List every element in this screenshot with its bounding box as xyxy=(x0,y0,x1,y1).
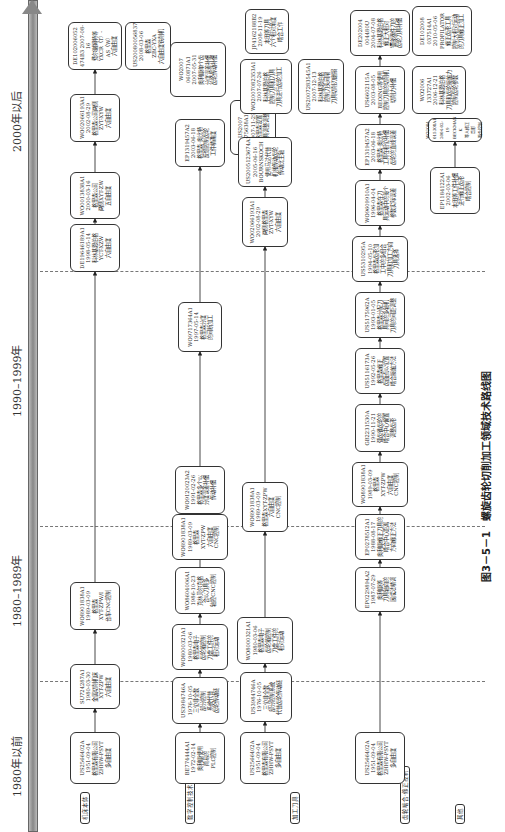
patent-node[interactable]: WO9717364A11997-05-14格里森分度的间断加工 xyxy=(178,302,222,352)
patent-node[interactable]: JP4162188B22008-11-19本田等刀具六个相对角度啮合工作 xyxy=(245,9,289,54)
patent-node[interactable]: GB2231530A1990-11-21弧齿锥齿轮的啮合中心偏置调整齿形 xyxy=(355,404,405,452)
patent-node[interactable]: DE202004004480U2004-07-08科林基恩伯格修正大相对镶嵌器件… xyxy=(350,10,410,56)
patent-node[interactable]: EP1319457A22003-06-18格里森·奥比特工具在相位补偿齿轮的直线… xyxy=(355,124,405,170)
patent-node[interactable]: EP0278512A11988-08-17奥利康修正刀具的啮合中心距离方向修正方… xyxy=(355,514,405,560)
patent-node[interactable]: WO8000321A11980-03-06格里森电子齿轮箱控制刀盘工件的相对运动 xyxy=(237,617,293,664)
patent-node[interactable]: WO2006133727A12006-12-21科林基恩伯格刀具和齿轮接触力控制… xyxy=(412,66,466,114)
patent-node[interactable]: WO8604006A11986-10-23克林贝尔克格合以刀具多轴控CNC控制 xyxy=(175,567,225,614)
patent-node[interactable]: DE19646189A11998-05-14科林基恩伯格YCT-XZW六自由度 xyxy=(70,224,120,272)
patent-node[interactable]: WO9120023A21991-02-26格里森多个以分度误差补偿传动补偿 xyxy=(175,466,225,514)
patent-node[interactable]: EP1184122A12002-03-06本田等工件补偿进行修正齿形啮合控制 xyxy=(430,167,480,214)
row-label: 数字控制技术 xyxy=(185,780,195,824)
patent-node[interactable]: WO8000321A11980-03-06格里森电子齿轮箱控制刀盘工件的相对运动 xyxy=(172,624,228,670)
patent-node[interactable]: WO8901838A11989-03-09格里森XYT-ZPW六自由度CNC控制 xyxy=(352,462,408,507)
patent-node[interactable]: US2005123674A12005-06-16BOURNSKOCH使用马达代替… xyxy=(238,137,292,187)
patent-node[interactable]: BE774444A11972-02-14奥利康使用简易的PLC控制 xyxy=(175,732,225,784)
patent-node[interactable]: WO02066193A12002-08-29格里森公司两侧ZYT-XYW六自由度 xyxy=(70,94,120,142)
patent-node[interactable]: US2566402A1951-09-04格里森有限公司ZHHW-PSYT多自由度 xyxy=(355,732,405,784)
patent-node[interactable]: EP1319457A22003-06-18格里森·奥比特反馈控制齿轮工件精确度 xyxy=(175,119,225,167)
patent-node[interactable]: WO02066193A12002-08-29两侧格里森ZYT-XYW六自由度 xyxy=(242,197,288,247)
patent-node[interactable]: WO8901838A11989-03-09格里森XYT-ZPW六自由度CNC控制 xyxy=(242,482,288,532)
patent-node[interactable]: US2566402A1951-09-04格里森有限公司ZHHW-PSYT多自由度 xyxy=(70,732,120,784)
row-label: 机床本体 xyxy=(80,792,90,824)
patent-node[interactable]: US2007283545A12007-12-13科林基恩伯格控制刀头间隔刀具切削… xyxy=(298,59,344,114)
patent-node[interactable]: WO2007060871A12007-05-31奥利康单个齿分度误差补偿齿轮传动… xyxy=(170,42,226,97)
patent-node[interactable]: US2566402A1951-09-04格里森有限公司ZHHW-PSYT多自由度 xyxy=(240,732,290,784)
patent-node[interactable]: WO0013838A12000-03-16格里森公司两侧XYT-ZW五自由度 xyxy=(70,172,120,219)
patent-node[interactable]: WO2004015308A12004-02-19BECKMAN K等人修正齿形啮… xyxy=(428,118,482,142)
patent-node[interactable]: DE102006052474B3 2007-08-16费尔谢姆特等YXCR（T）… xyxy=(68,22,122,70)
patent-node[interactable]: DE102008037514A12010-05-06PROFILATOR修正齿形… xyxy=(412,6,472,56)
patent-node[interactable]: US3984746A1976-10-05三位非全数部分控制系统代替齿轮传动链 xyxy=(240,672,292,722)
patent-node[interactable]: WO2007082353A12007-07-26科林基恩伯格控制刀具和刀具刀具进… xyxy=(240,59,292,114)
figure-caption: 图3－5－1 螺旋齿轮切削加工领域技术路线图 xyxy=(478,371,493,582)
patent-node[interactable]: SU724287A11980-03-30金属切削机床XYT-ZPW六自由度 xyxy=(70,664,120,709)
patent-node[interactable]: WO8901838A11989-03-09格里森XYT-ZPW/I台车CNC控制 xyxy=(70,582,120,630)
patent-node[interactable]: US6602115A2003-08-05BEOING等使用控制刀具的切削机切削力… xyxy=(355,66,405,114)
patent-node[interactable]: US200800568372008-03-06格里森ZBC-YXA六自由度铣削机 xyxy=(125,22,171,70)
patent-node[interactable]: WO9609910A11996-04-04格里森在刀具运动中的每个参数实际误差 xyxy=(355,180,405,226)
legend-other: 其他 xyxy=(455,804,465,824)
patent-node[interactable]: WO8901838A11989-03-09格里森XYT-ZPW六自由度CNC控制 xyxy=(172,514,228,560)
patent-node[interactable]: US5175962A1993-01-05格里森分配刀具间的多轴机刀具的间距调整 xyxy=(355,292,405,338)
patent-node[interactable]: EP0229894A21987-07-29奥利康等刀具轴向的展成法精调 xyxy=(355,567,405,612)
patent-node[interactable]: US3984746A1976-10-05三位非全数部分控制系统代替齿轮传动链 xyxy=(172,677,228,724)
roadmap-canvas: 1980年以前 1980–1989年 1990–1999年 2000年以后 xyxy=(0,0,505,832)
row-label: 加工刀具 xyxy=(290,792,300,824)
patent-node[interactable]: US5116173A1992-05-26格里森修正齿面点以位置啮合接触方法 xyxy=(355,348,405,394)
patent-node[interactable]: US5310295A1994-05-10格里森齿形加工中的多组合刀具和加工方向刀… xyxy=(352,236,408,282)
